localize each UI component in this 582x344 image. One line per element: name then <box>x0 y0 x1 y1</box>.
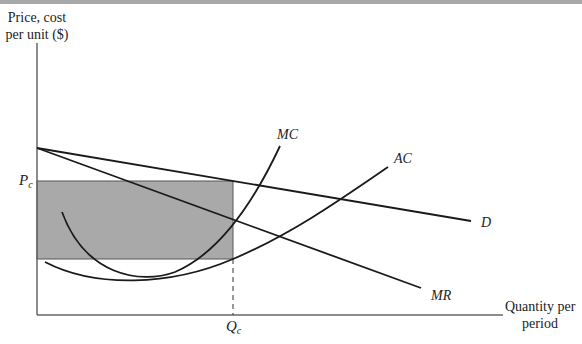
economics-diagram <box>0 0 582 344</box>
y-axis-label-line1: Price, cost <box>2 9 72 26</box>
x-axis-label: Quantity per period <box>505 298 575 332</box>
quantity-label-sub: c <box>237 325 241 336</box>
x-axis-label-line2: period <box>505 315 575 332</box>
y-axis-label-line2: per unit ($) <box>2 26 72 43</box>
price-label-main: P <box>19 172 28 188</box>
price-pc-label: Pc <box>19 172 33 190</box>
price-label-sub: c <box>28 179 32 190</box>
y-axis-label: Price, cost per unit ($) <box>2 9 72 43</box>
d-label: D <box>481 214 491 231</box>
ac-label: AC <box>394 150 412 167</box>
x-axis-label-line1: Quantity per <box>505 298 575 315</box>
profit-area <box>37 181 233 259</box>
quantity-label-main: Q <box>226 318 237 334</box>
mc-label: MC <box>277 126 298 143</box>
mr-label: MR <box>431 287 451 304</box>
quantity-qc-label: Qc <box>226 318 241 336</box>
